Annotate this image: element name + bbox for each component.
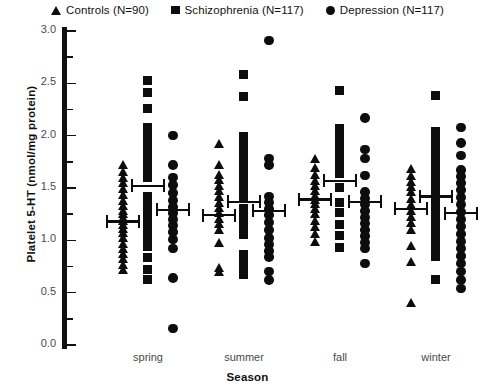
data-point-square [143,76,152,85]
error-cap-left [444,207,446,220]
mean-line [106,220,140,222]
data-point-circle [264,252,274,262]
data-point-square [143,253,152,262]
y-tick-label: 3.0 [22,23,56,35]
y-tick-minor [67,161,73,163]
error-cap-left [131,179,133,192]
legend-label-schizophrenia: Schizophrenia (N=117) [185,4,304,16]
chart-legend: Controls (N=90) Schizophrenia (N=117) De… [0,4,495,16]
data-point-circle [456,138,466,148]
error-cap-left [252,204,254,217]
error-cap-right [380,195,382,208]
data-point-square [335,243,344,252]
data-point-triangle [214,238,224,247]
data-point-square [143,265,152,274]
y-tick-major [67,344,76,346]
legend-entry-schizophrenia: Schizophrenia (N=117) [171,4,304,16]
data-point-circle [264,160,274,170]
data-point-circle [456,151,466,161]
error-cap-right [284,204,286,217]
y-tick-minor [67,318,73,320]
data-point-circle [168,160,178,170]
circle-marker-icon [326,6,335,15]
data-point-circle [168,273,178,283]
error-cap-left [394,202,396,215]
data-point-triangle [214,225,224,234]
data-point-circle [168,131,178,141]
mean-line [227,201,261,203]
data-point-square [335,231,344,240]
data-point-square [335,169,344,178]
error-cap-right [451,190,453,203]
x-tick-label-spring: spring [103,351,193,363]
data-point-circle [264,36,274,46]
triangle-marker-icon [51,6,61,15]
y-tick-major [67,292,76,294]
x-tick-label-winter: winter [391,351,481,363]
y-tick-label: 0.0 [22,337,56,349]
data-point-square [239,132,248,141]
data-point-square [335,198,344,207]
data-point-square [431,252,440,261]
y-tick-major [67,30,76,32]
data-point-triangle [406,241,416,250]
data-point-square [335,220,344,229]
data-point-square [335,208,344,217]
error-cap-right [188,203,190,216]
data-point-circle [360,259,370,269]
y-tick-minor [67,109,73,111]
error-cap-right [355,174,357,187]
data-point-triangle [214,267,224,276]
data-point-circle [360,113,370,123]
mean-line [394,208,428,210]
y-tick-label: 2.0 [22,128,56,140]
data-point-circle [168,235,178,245]
error-cap-right [426,202,428,215]
legend-entry-depression: Depression (N=117) [326,4,444,16]
data-point-triangle [406,225,416,234]
error-cap-left [156,203,158,216]
y-tick-label: 1.0 [22,232,56,244]
y-tick-major [67,240,76,242]
mean-line [298,198,332,200]
x-tick-label-fall: fall [295,351,385,363]
mean-line [202,214,236,216]
x-axis-label: Season [0,371,495,383]
error-cap-right [259,195,261,208]
data-point-square [239,270,248,279]
error-cap-right [330,193,332,206]
data-point-circle [360,145,370,155]
legend-label-controls: Controls (N=90) [66,4,149,16]
y-tick-minor [67,266,73,268]
data-point-triangle [118,265,128,274]
y-axis-label: Platelet 5-HT (nmol/mg protein) [25,64,37,284]
legend-label-depression: Depression (N=117) [340,4,444,16]
error-cap-left [202,209,204,222]
data-point-square [143,242,152,251]
mean-line [348,201,382,203]
data-point-square [239,70,248,79]
error-cap-left [419,190,421,203]
data-point-square [143,104,152,113]
data-point-circle [168,324,178,334]
error-cap-left [298,193,300,206]
data-point-triangle [406,298,416,307]
data-point-square [335,183,344,192]
error-cap-left [106,215,108,228]
data-point-square [239,92,248,101]
mean-line [131,185,165,187]
data-point-circle [168,244,178,254]
data-point-circle [456,123,466,133]
data-point-circle [360,244,370,254]
data-point-square [431,275,440,284]
y-tick-major [67,187,76,189]
y-tick-label: 2.5 [22,75,56,87]
data-point-square [143,173,152,182]
data-point-square [335,86,344,95]
mean-line [156,209,190,211]
y-tick-label: 0.5 [22,285,56,297]
data-point-square [143,275,152,284]
data-point-square [431,91,440,100]
data-point-triangle [406,257,416,266]
error-cap-right [234,209,236,222]
